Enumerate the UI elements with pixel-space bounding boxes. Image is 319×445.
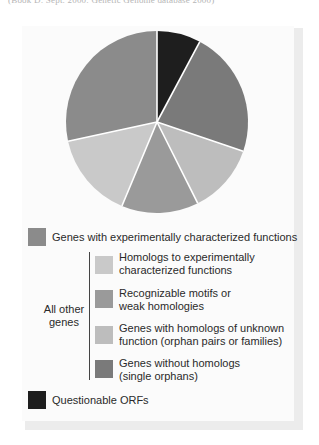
panel-shadow-bottom — [25, 421, 303, 430]
legend-swatch — [28, 228, 46, 246]
legend-label-line: (single orphans) — [119, 370, 240, 383]
legend-label: Questionable ORFs — [52, 394, 149, 407]
legend-group-bracket — [89, 252, 90, 380]
legend-swatch — [28, 391, 46, 409]
legend-label: Genes with experimentally characterized … — [52, 231, 297, 244]
legend-swatch — [95, 360, 113, 378]
legend-label-line: Recognizable motifs or — [119, 287, 231, 300]
legend-label-line: Genes with experimentally characterized … — [52, 231, 297, 244]
pie-chart — [0, 0, 319, 230]
legend-label-line: weak homologies — [119, 300, 231, 313]
legend-group-label: All other genes — [40, 303, 88, 329]
legend-label-line: Genes without homologs — [119, 357, 240, 370]
legend-label: Homologs to experimentally characterized… — [119, 251, 255, 276]
legend-swatch — [95, 326, 113, 344]
legend-label-line: characterized functions — [119, 264, 255, 277]
legend-label: Genes without homologs (single orphans) — [119, 357, 240, 382]
legend-label-line: Homologs to experimentally — [119, 251, 255, 264]
legend-label-line: Genes with homologs of unknown — [119, 322, 284, 335]
legend-label: Recognizable motifs or weak homologies — [119, 287, 231, 312]
legend-swatch — [95, 256, 113, 274]
legend-label-line: function (orphan pairs or families) — [119, 335, 284, 348]
legend-label-line: Questionable ORFs — [52, 394, 149, 407]
legend-swatch — [95, 290, 113, 308]
legend-label: Genes with homologs of unknown function … — [119, 322, 284, 347]
